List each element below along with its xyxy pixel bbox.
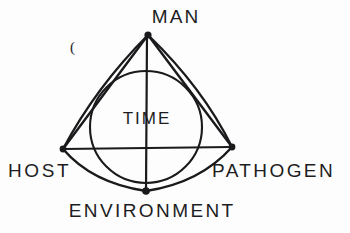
vertex-dot-pathogen [229,144,236,151]
vertex-label-pathogen: PATHOGEN [212,161,335,180]
vertex-label-man: MAN [0,7,350,26]
diagram-canvas: MAN TIME HOST PATHOGEN ENVIRONMENT ( [0,0,350,233]
vertex-dot-environment [142,187,150,195]
axis-horizontal-host-pathogen [63,147,232,149]
vertex-label-host: HOST [8,161,71,180]
center-label-time: TIME [0,110,292,127]
edge-man-host [63,35,148,149]
vertex-dot-man [144,31,151,38]
edge-environment-host-arc [63,149,146,191]
vertex-label-environment: ENVIRONMENT [0,201,302,220]
vertex-dot-host [60,146,67,153]
stray-mark-glyph: ( [70,40,75,55]
edge-man-pathogen [148,35,232,147]
